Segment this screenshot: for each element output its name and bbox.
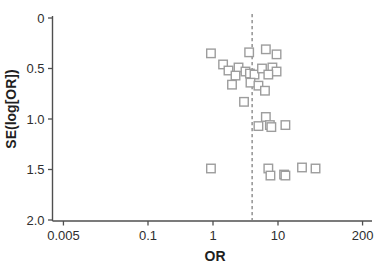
data-point-square bbox=[245, 48, 254, 57]
data-point-square bbox=[262, 45, 271, 54]
y-tick-label: 0.5 bbox=[26, 61, 44, 76]
y-tick-label: 1.0 bbox=[26, 112, 44, 127]
data-point-square bbox=[240, 98, 249, 107]
x-tick-label: 1 bbox=[209, 228, 216, 243]
data-point-square bbox=[311, 164, 320, 173]
data-point-square bbox=[281, 171, 290, 180]
data-point-square bbox=[262, 113, 271, 122]
data-point-square bbox=[207, 49, 216, 58]
data-point-square bbox=[246, 78, 255, 87]
funnel-plot-svg: 00.51.01.52.00.0050.1110200 SE(log[OR]) … bbox=[0, 0, 389, 274]
data-point-square bbox=[254, 122, 263, 131]
plot-area: 00.51.01.52.00.0050.1110200 bbox=[26, 11, 373, 244]
x-tick-label: 200 bbox=[352, 228, 374, 243]
y-tick-label: 0 bbox=[37, 11, 44, 26]
x-axis-title: OR bbox=[205, 248, 226, 264]
data-point-square bbox=[298, 163, 307, 172]
data-point-square bbox=[281, 121, 290, 130]
data-point-square bbox=[261, 86, 270, 95]
x-tick-label: 0.005 bbox=[47, 228, 80, 243]
data-point-square bbox=[272, 67, 281, 76]
x-tick-label: 10 bbox=[271, 228, 285, 243]
y-axis-title: SE(log[OR]) bbox=[3, 69, 19, 148]
y-tick-label: 2.0 bbox=[26, 213, 44, 228]
data-point-square bbox=[272, 50, 281, 59]
data-point-square bbox=[207, 164, 216, 173]
data-point-square bbox=[264, 70, 273, 79]
data-point-square bbox=[228, 80, 237, 89]
data-point-square bbox=[231, 71, 240, 80]
data-point-square bbox=[266, 171, 275, 180]
data-point-square bbox=[267, 123, 276, 132]
x-tick-label: 0.1 bbox=[139, 228, 157, 243]
funnel-plot: 00.51.01.52.00.0050.1110200 SE(log[OR]) … bbox=[0, 0, 389, 274]
y-tick-label: 1.5 bbox=[26, 162, 44, 177]
